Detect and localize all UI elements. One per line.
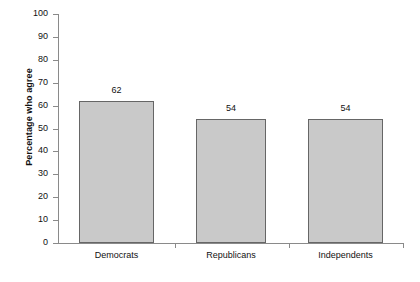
y-tick-label: 90	[6, 32, 48, 41]
y-tick-mark	[53, 197, 58, 198]
bar-chart: Percentage who agree 0102030405060708090…	[0, 0, 420, 282]
y-tick-mark	[53, 37, 58, 38]
x-category-label: Independents	[288, 250, 403, 261]
y-tick-mark	[53, 129, 58, 130]
y-tick-label: 100	[6, 9, 48, 18]
bar	[79, 101, 154, 243]
y-tick-mark	[53, 243, 58, 244]
y-tick-label: 20	[6, 192, 48, 201]
x-tick-mark	[175, 243, 176, 248]
bar	[196, 119, 266, 243]
y-tick-label: 0	[6, 238, 48, 247]
y-tick-label: 50	[6, 124, 48, 133]
bar-value-label: 62	[79, 86, 154, 95]
y-tick-mark	[53, 14, 58, 15]
y-tick-label: 40	[6, 146, 48, 155]
y-tick-mark	[53, 220, 58, 221]
y-tick-mark	[53, 60, 58, 61]
bar-value-label: 54	[196, 104, 266, 113]
y-tick-label: 70	[6, 78, 48, 87]
y-tick-mark	[53, 106, 58, 107]
y-tick-label: 30	[6, 169, 48, 178]
y-tick-mark	[53, 83, 58, 84]
x-category-label: Democrats	[59, 250, 174, 261]
y-axis-line	[58, 14, 59, 243]
y-tick-label: 10	[6, 215, 48, 224]
y-tick-label: 80	[6, 55, 48, 64]
y-tick-mark	[53, 151, 58, 152]
x-tick-mark	[403, 243, 404, 248]
y-tick-mark	[53, 174, 58, 175]
y-tick-label: 60	[6, 101, 48, 110]
x-tick-mark	[289, 243, 290, 248]
bar-value-label: 54	[308, 104, 383, 113]
x-category-label: Republicans	[176, 250, 286, 261]
bar	[308, 119, 383, 243]
x-axis-line	[58, 243, 403, 244]
